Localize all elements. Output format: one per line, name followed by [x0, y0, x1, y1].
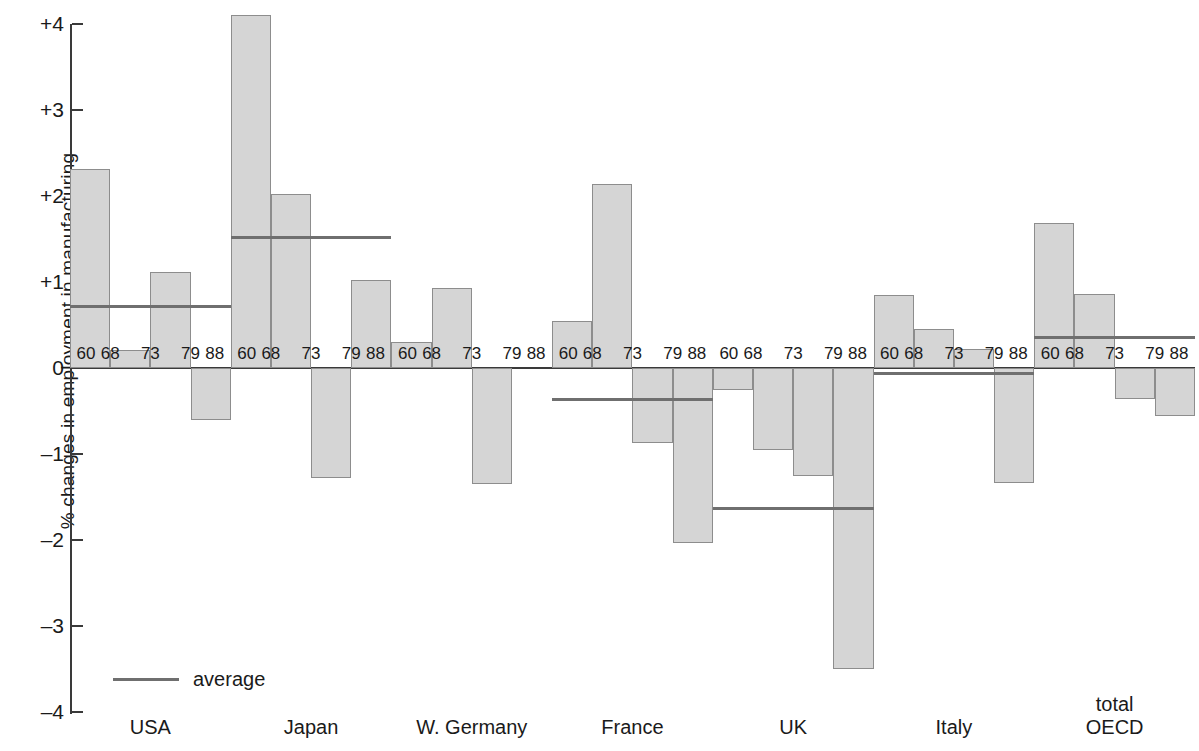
year-tick-label: 88: [201, 345, 229, 362]
bar: [592, 184, 632, 368]
y-axis-tick-label: –1: [16, 443, 64, 464]
average-line: [70, 305, 231, 308]
y-axis-tick-label: +3: [16, 99, 64, 120]
y-axis-tick-label: +1: [16, 271, 64, 292]
bar: [994, 368, 1034, 483]
average-line: [713, 507, 874, 510]
bar: [271, 194, 311, 368]
year-tick-label: 68: [418, 345, 446, 362]
y-axis-tick-label: –4: [16, 701, 64, 722]
bar-group-usa: 6068737988: [70, 0, 231, 751]
y-axis-tick-label: 0: [16, 357, 64, 378]
year-tick-label: 88: [522, 345, 550, 362]
bar-group-w-germany: 6068737988: [391, 0, 552, 751]
y-axis-tick-label: –3: [16, 615, 64, 636]
year-tick-label: 88: [361, 345, 389, 362]
bar-group-uk: 6068737988: [713, 0, 874, 751]
year-tick-label: 88: [1165, 345, 1193, 362]
year-tick-label: 73: [779, 345, 807, 362]
bar: [713, 368, 753, 390]
legend-average-label: average: [193, 668, 265, 691]
bar-group-france: 6068737988: [552, 0, 713, 751]
year-tick-label: 88: [683, 345, 711, 362]
year-tick-label: 68: [96, 345, 124, 362]
year-tick-label: 73: [1101, 345, 1129, 362]
year-tick-label: 68: [1060, 345, 1088, 362]
bar: [311, 368, 351, 478]
year-tick-label: 68: [578, 345, 606, 362]
year-tick-label: 73: [940, 345, 968, 362]
legend: average: [113, 668, 265, 691]
bar: [231, 15, 271, 368]
bar: [191, 368, 231, 420]
y-axis-tick-label: +2: [16, 185, 64, 206]
bar: [1155, 368, 1195, 416]
bar: [70, 169, 110, 368]
y-axis-tick-label: –2: [16, 529, 64, 550]
bar: [1115, 368, 1155, 399]
year-tick-label: 68: [739, 345, 767, 362]
bar-group-italy: 6068737988: [874, 0, 1035, 751]
average-line: [874, 372, 1035, 375]
bar: [673, 368, 713, 543]
year-tick-label: 73: [618, 345, 646, 362]
bar: [472, 368, 512, 484]
year-tick-label: 68: [900, 345, 928, 362]
bar: [753, 368, 793, 450]
legend-average-line-icon: [113, 678, 179, 681]
average-line: [1034, 336, 1195, 339]
bar-group-total-oecd: 6068737988: [1034, 0, 1195, 751]
bar: [833, 368, 873, 669]
year-tick-label: 68: [257, 345, 285, 362]
bar-group-japan: 6068737988: [231, 0, 392, 751]
employment-change-bar-chart: % changes in employment in manufacturing…: [0, 0, 1199, 751]
bar: [793, 368, 833, 476]
year-tick-label: 88: [1004, 345, 1032, 362]
year-tick-label: 73: [297, 345, 325, 362]
plot-area: USA6068737988Japan6068737988W. Germany60…: [70, 0, 1195, 751]
year-tick-label: 73: [458, 345, 486, 362]
bar: [632, 368, 672, 443]
year-tick-label: 88: [844, 345, 872, 362]
y-axis-tick-label: +4: [16, 13, 64, 34]
year-tick-label: 73: [136, 345, 164, 362]
average-line: [552, 398, 713, 401]
average-line: [231, 236, 392, 239]
